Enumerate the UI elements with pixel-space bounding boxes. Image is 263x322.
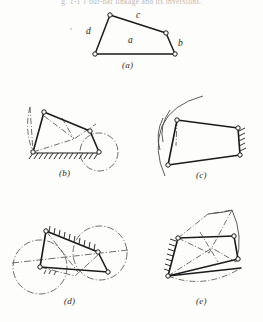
figure-d-coupler-hatching	[49, 226, 95, 250]
figure-page: g. 1-1 1 our-bar linkage and its inversi…	[0, 0, 263, 322]
link-label-b: b	[178, 38, 183, 48]
link-label-a: a	[128, 35, 133, 45]
link-label-c: c	[136, 10, 140, 20]
scan-speck	[70, 28, 72, 30]
figure-caption-a: (a)	[122, 60, 133, 70]
figure-caption-e: (e)	[196, 296, 207, 306]
figure-b-coupler-trace	[33, 116, 96, 152]
figure-caption-d: (d)	[64, 296, 75, 306]
linkage-diagrams-svg	[0, 0, 263, 322]
figure-c-links	[168, 120, 240, 165]
figure-e-dashdot-traces	[168, 210, 241, 281]
figure-caption-c: (c)	[196, 170, 207, 180]
link-label-d: d	[86, 26, 91, 36]
figure-caption-b: (b)	[59, 168, 70, 178]
figure-a-graphic	[95, 15, 175, 54]
figure-e-links	[168, 236, 241, 276]
figure-b-rocker-arc	[28, 107, 33, 152]
figure-a-joints	[93, 13, 177, 56]
figure-b-ground-hatching	[29, 153, 98, 159]
